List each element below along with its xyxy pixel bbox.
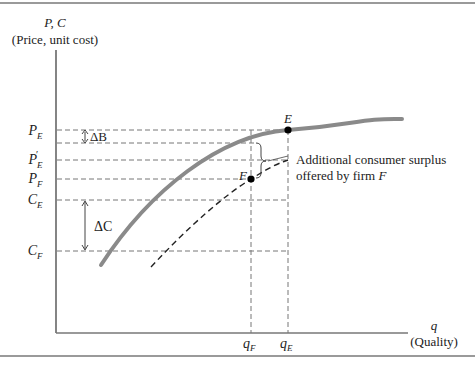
svg-text:P: P (27, 171, 37, 186)
svg-text:E: E (36, 131, 43, 141)
y-tick-cf: C F (28, 243, 43, 261)
svg-text:E: E (36, 160, 43, 170)
x-axis-label: (Quality) (410, 334, 458, 349)
point-f-label: F (238, 168, 248, 183)
surplus-annotation-line2: offered by firm F (296, 168, 387, 183)
svg-text:F: F (249, 343, 256, 353)
y-tick-ce: C E (28, 192, 43, 210)
svg-text:F: F (36, 179, 43, 189)
y-tick-pe: P E (27, 123, 43, 141)
surplus-annotation-line1: Additional consumer surplus (296, 152, 446, 167)
svg-text:′: ′ (36, 149, 38, 160)
y-tick-pe-prime: P ′ E (27, 149, 43, 170)
y-axis-symbol: P, C (43, 15, 66, 30)
delta-b-arrow (82, 130, 88, 143)
point-e-label: E (283, 111, 292, 126)
svg-text:q: q (243, 336, 250, 351)
svg-text:P: P (27, 123, 37, 138)
y-axis-label: (Price, unit cost) (12, 32, 98, 47)
svg-text:E: E (286, 343, 293, 353)
delta-c-label: ΔC (94, 219, 112, 234)
svg-text:F: F (36, 251, 43, 261)
y-tick-pf: P F (27, 171, 43, 189)
point-e (284, 126, 291, 133)
economics-diagram: P, C (Price, unit cost) E F ΔB ΔC (0, 0, 475, 365)
delta-c-arrow (82, 201, 88, 250)
x-tick-qf: q F (243, 336, 256, 353)
svg-text:q: q (280, 336, 287, 351)
point-f (247, 175, 254, 182)
delta-b-label: ΔB (90, 129, 107, 144)
svg-text:E: E (36, 200, 43, 210)
x-axis-symbol: q (431, 318, 438, 333)
horizontal-guides (57, 130, 288, 251)
x-tick-qe: q E (280, 336, 293, 353)
